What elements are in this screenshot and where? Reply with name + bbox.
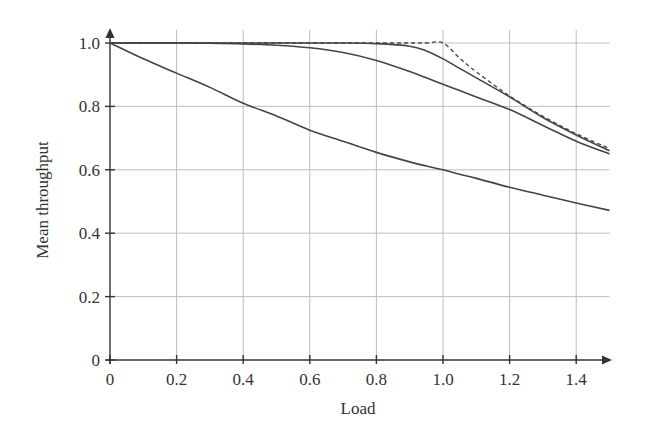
y-tick-label: 0 xyxy=(92,351,101,370)
x-tick-label: 0.4 xyxy=(233,370,255,389)
x-axis-arrow-icon xyxy=(602,356,612,365)
x-axis-label: Load xyxy=(341,399,376,418)
y-tick-label: 0.2 xyxy=(79,288,100,307)
y-tick-labels: 00.20.40.60.81.0 xyxy=(79,34,101,370)
series-curve-3 xyxy=(110,43,610,210)
data-curves xyxy=(110,42,610,211)
y-tick-label: 0.4 xyxy=(79,224,101,243)
x-tick-label: 0.2 xyxy=(166,370,187,389)
grid-lines xyxy=(110,30,610,360)
y-tick-label: 0.8 xyxy=(79,97,100,116)
series-curve-2 xyxy=(110,43,610,154)
y-axis-label: Mean throughput xyxy=(33,141,52,259)
x-tick-label: 1.4 xyxy=(566,370,588,389)
y-tick-label: 0.6 xyxy=(79,161,100,180)
x-tick-label: 0 xyxy=(106,370,115,389)
chart: 00.20.40.60.81.01.21.4 00.20.40.60.81.0 … xyxy=(0,0,648,438)
series-curve-1 xyxy=(110,43,610,151)
x-tick-label: 0.8 xyxy=(366,370,387,389)
x-tick-labels: 00.20.40.60.81.01.21.4 xyxy=(106,370,588,389)
x-tick-label: 1.0 xyxy=(432,370,453,389)
x-tick-label: 0.6 xyxy=(299,370,320,389)
y-axis-arrow-icon xyxy=(106,28,115,38)
tick-marks xyxy=(105,43,576,364)
axes xyxy=(106,28,613,365)
x-tick-label: 1.2 xyxy=(499,370,520,389)
y-tick-label: 1.0 xyxy=(79,34,100,53)
series-curve-0 xyxy=(110,42,610,149)
